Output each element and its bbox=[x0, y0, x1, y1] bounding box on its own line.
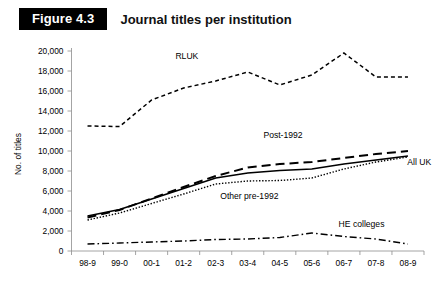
figure-title: Journal titles per institution bbox=[120, 12, 291, 27]
x-tick-label: 02-3 bbox=[207, 258, 224, 268]
x-tick-label: 08-9 bbox=[400, 258, 417, 268]
y-tick-label: 4,000 bbox=[43, 206, 64, 216]
x-tick-label: 98-9 bbox=[79, 258, 96, 268]
series-label-he-colleges: HE colleges bbox=[339, 219, 385, 229]
figure-header: Figure 4.3 Journal titles per institutio… bbox=[0, 7, 441, 31]
series-label-all-uk: All UK bbox=[407, 157, 431, 167]
y-tick-label: 0 bbox=[59, 246, 64, 256]
y-tick-label: 8,000 bbox=[43, 166, 64, 176]
series-lines bbox=[88, 53, 408, 244]
y-tick-label: 6,000 bbox=[43, 186, 64, 196]
x-tick-label: 04-5 bbox=[271, 258, 288, 268]
y-tick-label: 2,000 bbox=[43, 226, 64, 236]
series-label-post-1992: Post-1992 bbox=[263, 130, 302, 140]
y-tick-label: 12,000 bbox=[38, 126, 64, 136]
x-tick-label: 05-6 bbox=[303, 258, 320, 268]
x-tick-label: 00-1 bbox=[143, 258, 160, 268]
x-axis-ticks: 98-999-000-101-202-303-404-505-606-707-8… bbox=[72, 251, 425, 268]
y-tick-label: 10,000 bbox=[38, 146, 64, 156]
y-tick-label: 18,000 bbox=[38, 66, 64, 76]
figure-page: Figure 4.3 Journal titles per institutio… bbox=[0, 0, 441, 284]
series-label-other-pre-1992: Other pre-1992 bbox=[220, 191, 279, 201]
line-chart: 02,0004,0006,0008,00010,00012,00014,0001… bbox=[0, 31, 441, 284]
y-tick-label: 20,000 bbox=[38, 46, 64, 56]
x-tick-label: 06-7 bbox=[336, 258, 353, 268]
series-line-rluk bbox=[88, 53, 408, 127]
x-tick-label: 01-2 bbox=[175, 258, 192, 268]
x-tick-label: 03-4 bbox=[239, 258, 256, 268]
x-tick-label: 07-8 bbox=[368, 258, 385, 268]
y-tick-label: 16,000 bbox=[38, 86, 64, 96]
y-tick-label: 14,000 bbox=[38, 106, 64, 116]
series-line-other-pre-1992 bbox=[88, 157, 408, 220]
figure-number-badge: Figure 4.3 bbox=[19, 8, 107, 30]
x-tick-label: 99-0 bbox=[111, 258, 128, 268]
series-label-rluk: RLUK bbox=[175, 51, 198, 61]
chart-canvas: 02,0004,0006,0008,00010,00012,00014,0001… bbox=[0, 31, 441, 284]
y-axis-title: No. of titles bbox=[13, 133, 23, 175]
y-axis-ticks: 02,0004,0006,0008,00010,00012,00014,0001… bbox=[38, 46, 72, 256]
series-line-he-colleges bbox=[88, 233, 408, 244]
